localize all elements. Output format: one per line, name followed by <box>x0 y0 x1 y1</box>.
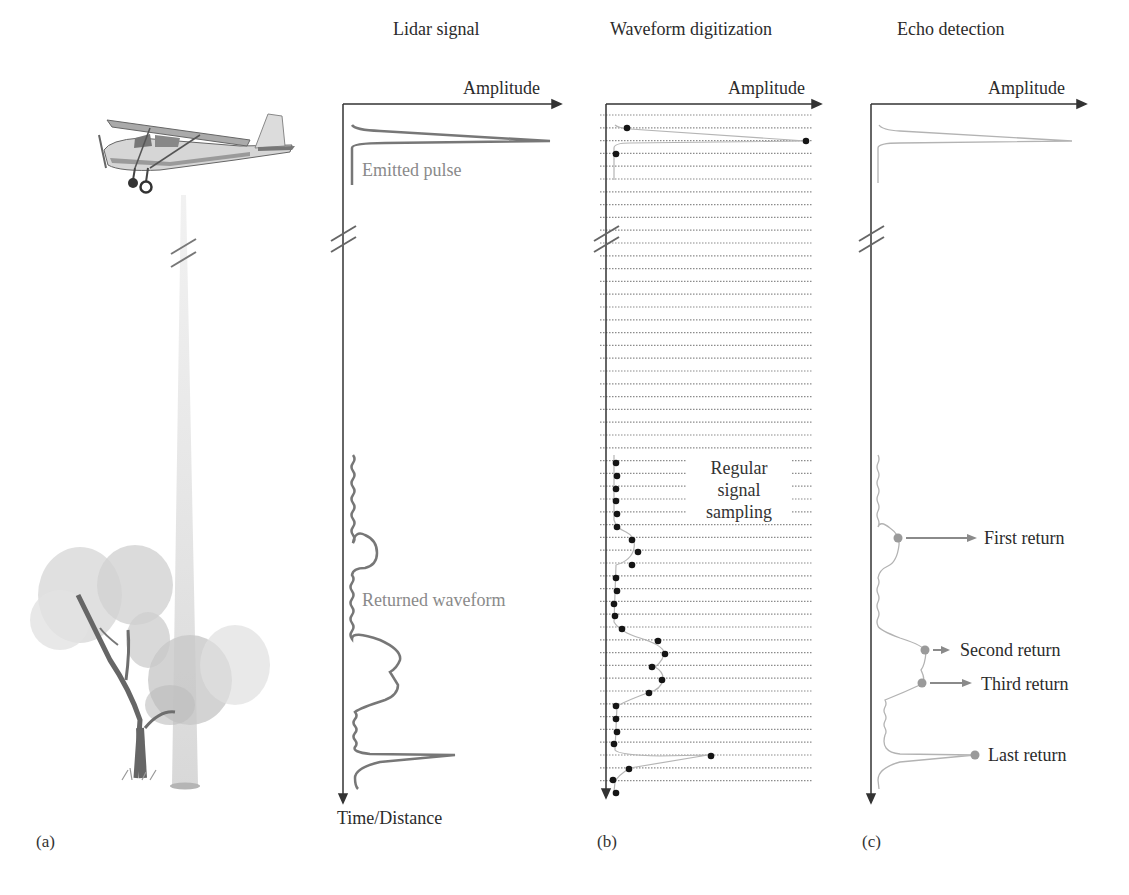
echo-detection-title: Echo detection <box>897 19 1004 40</box>
second-return-label: Second return <box>960 640 1060 661</box>
echo-detection-chart <box>0 0 1129 895</box>
last-return-label: Last return <box>988 745 1066 766</box>
echo-axes <box>867 100 1086 803</box>
first-return-label: First return <box>984 528 1065 549</box>
echo-amplitude-label: Amplitude <box>988 78 1065 99</box>
panel-label-a: (a) <box>36 832 55 852</box>
panel-label-c: (c) <box>862 832 881 852</box>
third-return-label: Third return <box>981 674 1068 695</box>
panel-label-b: (b) <box>597 832 617 852</box>
